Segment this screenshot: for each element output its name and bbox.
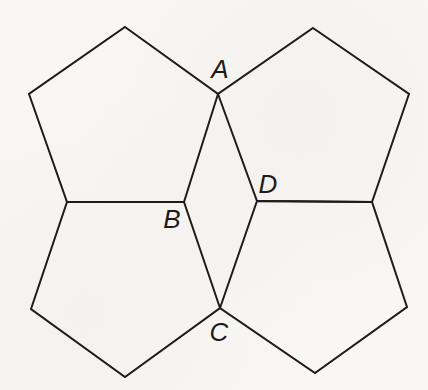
vertex-label-c: C [210, 317, 229, 347]
vertex-label-a: A [209, 54, 228, 84]
figure-page: ABCD [0, 0, 428, 390]
pentagon-top-left [29, 27, 218, 202]
pentagon-bottom-right [220, 201, 407, 373]
pentagon-bottom-left [31, 202, 220, 377]
vertex-label-d: D [259, 169, 278, 199]
vertex-label-b: B [163, 204, 180, 234]
pentagon-top-right [218, 28, 409, 202]
pentagon-tiling-figure: ABCD [0, 0, 428, 390]
